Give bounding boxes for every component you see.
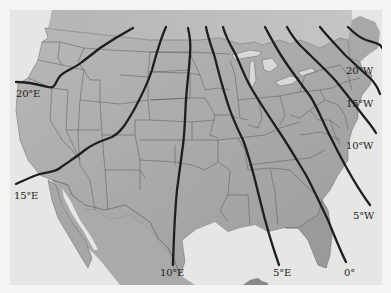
- label-10W: 10°W: [346, 140, 373, 151]
- declination-map: 20°E 15°E 10°E 5°E 0° 5°W 10°W 15°W 20°W: [10, 10, 382, 285]
- label-15E: 15°E: [14, 190, 38, 201]
- label-10E: 10°E: [160, 267, 184, 278]
- label-20W: 20°W: [346, 65, 373, 76]
- label-5W: 5°W: [353, 210, 374, 221]
- map-canvas: [10, 10, 382, 285]
- label-15W: 15°W: [346, 98, 373, 109]
- label-20E: 20°E: [16, 88, 40, 99]
- label-0: 0°: [344, 267, 355, 278]
- label-5E: 5°E: [273, 267, 291, 278]
